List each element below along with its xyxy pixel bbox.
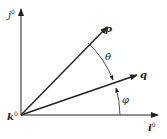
label-phi: φ [122, 94, 129, 105]
label-i0: i0 [148, 121, 156, 133]
label-p: p [105, 23, 112, 34]
phi-arc [116, 88, 120, 115]
vector-p [21, 27, 107, 115]
label-k0: k0 [7, 110, 18, 122]
label-theta: θ [105, 51, 111, 62]
label-q: q [140, 69, 147, 80]
label-j0: j0 [6, 8, 15, 20]
vector-angle-diagram: j0 k0 i0 p q θ φ [0, 0, 167, 139]
